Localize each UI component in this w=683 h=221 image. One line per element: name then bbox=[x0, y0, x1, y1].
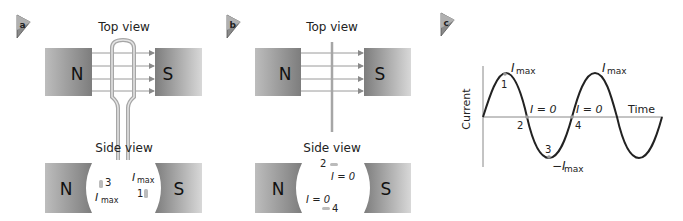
y-axis-label: Current bbox=[460, 88, 473, 130]
imax-sub-1: max bbox=[516, 66, 536, 76]
south-label-side: S bbox=[381, 179, 392, 199]
north-magnet bbox=[45, 48, 92, 96]
top-view-title: Top view bbox=[97, 20, 150, 34]
side-view-title: Side view bbox=[303, 141, 361, 155]
north-label-side: N bbox=[272, 179, 285, 199]
wire-section-1 bbox=[144, 189, 148, 198]
panel-b: b Top view N S Side view N S 2 I = 0 I =… bbox=[227, 15, 411, 214]
zero-current-label-1: I = 0 bbox=[530, 103, 556, 116]
north-label: N bbox=[71, 64, 84, 84]
imax-label-1: I bbox=[132, 171, 135, 184]
south-label-side: S bbox=[174, 179, 185, 199]
top-view-title: Top view bbox=[305, 20, 358, 34]
imax-label-2: I bbox=[602, 61, 606, 75]
zero-current-label-2: I = 0 bbox=[331, 171, 355, 182]
point-1-label: 1 bbox=[137, 188, 143, 199]
point-3-label: 3 bbox=[105, 177, 111, 188]
x-axis-label: Time bbox=[627, 103, 655, 116]
point-4-label: 4 bbox=[575, 120, 581, 131]
badge-c: c bbox=[441, 13, 455, 36]
south-label: S bbox=[375, 64, 386, 84]
point-4-label: 4 bbox=[332, 203, 338, 214]
imax-sub-3: max bbox=[101, 196, 119, 205]
point-1-label: 1 bbox=[501, 79, 507, 90]
south-label: S bbox=[163, 64, 174, 84]
point-2-label: 2 bbox=[517, 120, 523, 131]
badge-label: c bbox=[444, 18, 449, 28]
south-magnet bbox=[364, 48, 411, 96]
badge-b: b bbox=[227, 15, 241, 38]
imax-label-1: I bbox=[511, 61, 515, 75]
point-2-label: 2 bbox=[320, 158, 326, 169]
imax-sub-1: max bbox=[137, 176, 155, 185]
panel-a: a Top view N S Side view N S 3 I max I m… bbox=[17, 15, 202, 213]
point-3-label: 3 bbox=[545, 144, 551, 155]
imax-sub-2: max bbox=[607, 66, 627, 76]
imax-label-3: I bbox=[95, 191, 98, 204]
side-view-title: Side view bbox=[95, 141, 153, 155]
zero-current-label-2: I = 0 bbox=[576, 103, 602, 116]
magnetic-field-lines bbox=[92, 53, 154, 91]
wire-section-4 bbox=[322, 207, 330, 210]
panel-c: c Current I max 1 2 I = 0 3 −I max 4 I =… bbox=[441, 13, 663, 174]
badge-label: b bbox=[230, 20, 237, 30]
wire-section-2 bbox=[330, 163, 338, 166]
wire-section-3 bbox=[99, 180, 103, 188]
badge-label: a bbox=[20, 20, 26, 30]
zero-current-label-4: I = 0 bbox=[306, 194, 330, 205]
north-label: N bbox=[279, 64, 292, 84]
badge-a: a bbox=[17, 15, 31, 38]
north-label-side: N bbox=[60, 179, 73, 199]
neg-imax-sub: max bbox=[564, 164, 584, 174]
generator-diagram: a Top view N S Side view N S 3 I max I m… bbox=[0, 0, 683, 221]
